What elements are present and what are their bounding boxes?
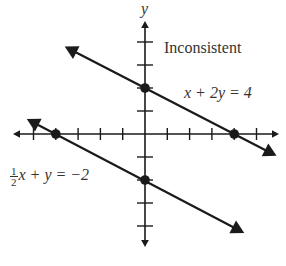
y-axis-arrow-down-icon [141, 240, 149, 247]
x-axis-arrow-left-icon [13, 130, 20, 138]
fraction-denominator: 2 [10, 177, 18, 187]
intercept-point [229, 129, 239, 139]
intercept-point [51, 129, 61, 139]
equation-2-rest: x + y = −2 [19, 166, 90, 183]
equation-1-label: x + 2y = 4 [184, 84, 252, 102]
intercept-point [140, 175, 150, 185]
intercept-point [140, 83, 150, 93]
x-axis-arrow-right-icon [272, 130, 279, 138]
chart-title: Inconsistent [164, 39, 241, 57]
y-axis-label: y [141, 0, 148, 18]
fraction-one-half: 12 [10, 166, 18, 187]
coordinate-plane [0, 0, 286, 266]
y-axis-arrow-up-icon [141, 21, 149, 28]
equation-2-label: 12x + y = −2 [10, 166, 89, 187]
